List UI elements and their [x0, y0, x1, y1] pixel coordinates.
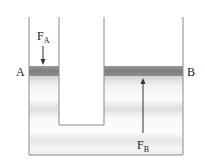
label-piston-b: B [187, 66, 195, 78]
fluid [29, 76, 183, 155]
force-a-subscript: A [44, 36, 50, 45]
label-force-a: FA [37, 30, 49, 44]
piston-a [29, 66, 59, 76]
force-b-subscript: B [144, 145, 149, 154]
piston-b [104, 66, 183, 76]
force-b-symbol: F [137, 138, 144, 152]
force-arrow-a [41, 46, 46, 65]
hydraulic-press-diagram [0, 0, 205, 165]
label-force-b: FB [137, 139, 149, 153]
force-a-symbol: F [37, 29, 44, 43]
label-piston-a: A [16, 66, 25, 78]
